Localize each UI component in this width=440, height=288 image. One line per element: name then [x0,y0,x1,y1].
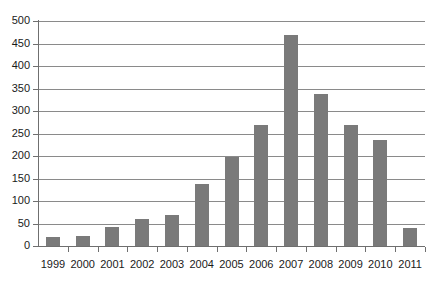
y-axis-tick-label: 450 [0,38,30,49]
bar [254,125,268,246]
y-axis-tick-label: 100 [0,195,30,206]
bar [46,237,60,246]
x-axis-tick-label: 2003 [157,258,187,270]
x-axis-tick-label: 2010 [365,258,395,270]
x-axis-tick-mark [157,247,158,252]
x-axis-tick-label: 1999 [38,258,68,270]
x-axis-tick-label: 2005 [217,258,247,270]
bar [373,140,387,246]
bar [165,215,179,247]
y-axis-labels: 500450400350300250200150100500 [0,0,30,288]
x-axis-tick-mark [306,247,307,252]
x-axis-line [38,246,425,247]
x-axis-tick-label: 2000 [68,258,98,270]
bar [225,157,239,246]
x-axis-tick-label: 2004 [187,258,217,270]
y-axis-tick-label: 300 [0,105,30,116]
x-axis-tick-mark [365,247,366,252]
x-axis-tick-mark [217,247,218,252]
y-axis-tick-label: 350 [0,83,30,94]
x-axis-tick-label: 2007 [276,258,306,270]
bar [135,219,149,246]
x-axis-tick-label: 2011 [395,258,425,270]
x-axis-tick-label: 2002 [127,258,157,270]
bar [76,236,90,246]
x-axis-tick-mark [98,247,99,252]
plot-area [38,21,425,246]
y-axis-tick-label: 200 [0,150,30,161]
y-axis-tick-label: 400 [0,60,30,71]
bar [314,94,328,246]
x-axis-tick-mark [395,247,396,252]
x-axis-tick-mark [187,247,188,252]
x-axis-tick-label: 2001 [98,258,128,270]
x-axis-tick-mark [68,247,69,252]
x-axis-tick-mark [127,247,128,252]
x-axis-tick-label: 2009 [336,258,366,270]
bar [105,227,119,246]
x-axis-tick-label: 2008 [306,258,336,270]
x-axis-tick-mark [336,247,337,252]
x-axis-tick-mark [246,247,247,252]
x-axis-tick-mark [425,247,426,252]
y-axis-tick-label: 0 [0,240,30,251]
x-axis-tick-mark [276,247,277,252]
bar [344,125,358,247]
bar [284,35,298,247]
y-axis-tick-label: 150 [0,173,30,184]
y-axis-tick-label: 250 [0,128,30,139]
bar-chart: 500450400350300250200150100500 199920002… [0,0,440,288]
bar [195,184,209,246]
x-axis-tick-label: 2006 [246,258,276,270]
y-axis-tick-label: 50 [0,218,30,229]
bar [403,228,417,246]
y-axis-tick-label: 500 [0,15,30,26]
